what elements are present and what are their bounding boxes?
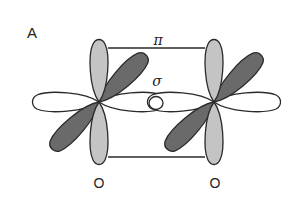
right-oxygen-orbitals bbox=[148, 40, 281, 165]
left-oxygen-label: O bbox=[89, 175, 109, 191]
orbital-diagram-panel: A π σ O O bbox=[0, 0, 305, 204]
panel-label: A bbox=[27, 24, 37, 41]
sigma-overlap-circle bbox=[149, 97, 163, 110]
sigma-bond-label: σ bbox=[147, 73, 167, 89]
pi-bond-label: π bbox=[148, 32, 168, 48]
right-oxygen-label: O bbox=[205, 175, 225, 191]
orbital-diagram-svg bbox=[0, 0, 305, 204]
left-oxygen-orbitals bbox=[33, 40, 166, 165]
